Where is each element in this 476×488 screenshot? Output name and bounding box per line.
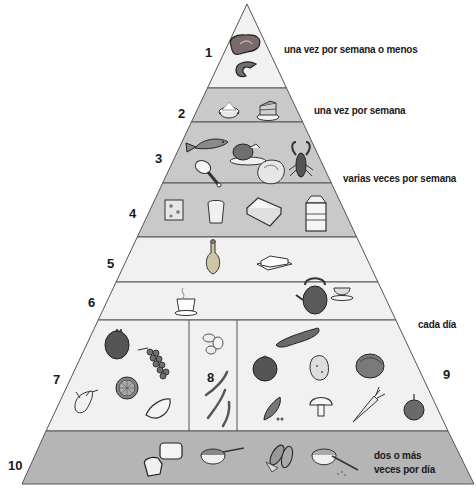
lettuce-icon <box>356 354 384 378</box>
food-pyramid <box>0 0 476 488</box>
frequency-label-level-3: varias veces por semana <box>343 172 456 184</box>
orange-half-icon <box>116 377 138 399</box>
level-number-1: 1 <box>205 45 212 60</box>
level-number-4: 4 <box>129 206 136 221</box>
level-number-6: 6 <box>88 295 95 310</box>
frequency-label-level-9: cada día <box>418 318 456 330</box>
milk-carton-icon <box>306 196 326 231</box>
level-2-band <box>191 88 302 122</box>
level-5-band <box>116 237 378 282</box>
frequency-label-level-10-line-2: veces por día <box>374 462 435 476</box>
level-number-2: 2 <box>178 106 185 121</box>
frequency-label-level-1: una vez por semana o menos <box>284 43 417 55</box>
level-number-7: 7 <box>53 372 60 387</box>
level-number-5: 5 <box>107 256 114 271</box>
level-number-3: 3 <box>155 151 162 166</box>
frequency-label-level-10: dos o más veces por día <box>374 448 435 476</box>
potato-icon <box>310 356 329 381</box>
frequency-label-level-10-line-1: dos o más <box>374 448 435 462</box>
yogurt-cup-icon <box>208 201 224 224</box>
frequency-label-level-2: una vez por semana <box>314 104 405 116</box>
shrimp-icon <box>258 160 285 184</box>
level-7-9-band <box>46 320 448 431</box>
level-number-8: 8 <box>207 370 214 385</box>
level-6-band <box>98 282 396 320</box>
level-number-9: 9 <box>443 367 450 382</box>
cheese-icon <box>165 200 183 220</box>
level-number-10: 10 <box>8 458 22 473</box>
tomato-icon <box>253 356 277 381</box>
